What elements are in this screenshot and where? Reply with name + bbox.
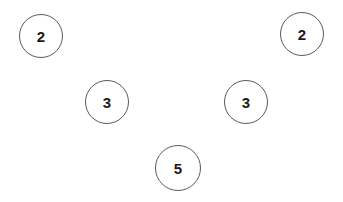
node-label: 3 xyxy=(242,95,250,110)
node-label: 5 xyxy=(174,161,182,176)
node-circle: 2 xyxy=(280,12,324,56)
node-circle: 3 xyxy=(85,80,129,124)
node-circle: 2 xyxy=(19,14,63,58)
node-circle: 5 xyxy=(155,145,201,191)
node-label: 2 xyxy=(298,27,306,42)
node-label: 2 xyxy=(37,29,45,44)
diagram-canvas: 2 2 3 3 5 xyxy=(0,0,343,202)
node-circle: 3 xyxy=(224,80,268,124)
node-label: 3 xyxy=(103,95,111,110)
